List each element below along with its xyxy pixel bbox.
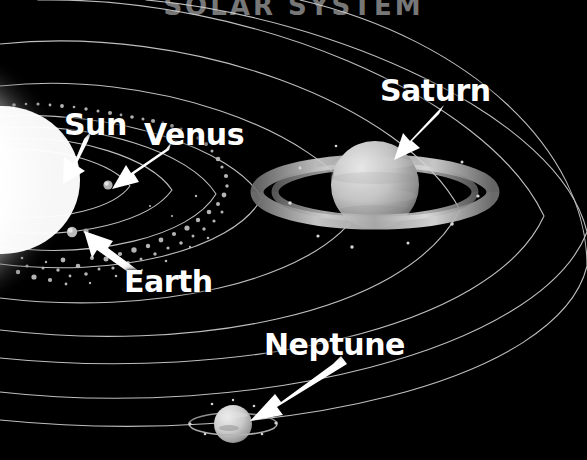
solar-system-illustration: SOLAR SYSTEM xyxy=(0,0,587,460)
venus-body xyxy=(103,180,112,189)
neptune-body xyxy=(188,399,277,443)
scene-canvas xyxy=(0,0,587,460)
earth-body xyxy=(67,227,77,237)
label-venus: Venus xyxy=(144,120,244,150)
label-sun: Sun xyxy=(64,110,127,140)
label-neptune: Neptune xyxy=(264,330,405,360)
label-earth: Earth xyxy=(124,267,213,297)
label-saturn: Saturn xyxy=(380,76,491,106)
saturn-body xyxy=(257,141,493,249)
arrow-saturn xyxy=(394,105,444,160)
